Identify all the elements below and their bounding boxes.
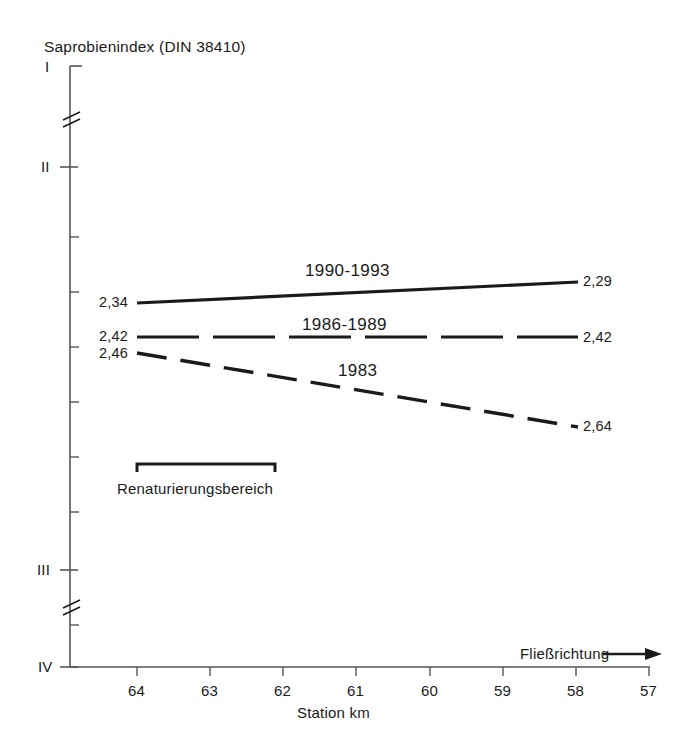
value-label-1986-start: 2,42 — [99, 328, 128, 344]
x-tick-label-63: 63 — [201, 682, 218, 699]
fliessrichtung-label: Fließrichtung — [520, 645, 609, 662]
axis-break-icon — [63, 600, 80, 608]
y-axis-label-iv: IV — [38, 658, 53, 675]
value-label-1986-end: 2,42 — [583, 329, 612, 345]
axis-break-icon — [63, 112, 80, 120]
x-axis-caption: Station km — [297, 704, 370, 721]
series-line-1990-1993 — [137, 282, 578, 303]
x-tick-label-64: 64 — [128, 682, 145, 699]
y-axis-label-ii: II — [41, 158, 50, 175]
x-tick-label-61: 61 — [347, 682, 364, 699]
flow-arrow-head — [645, 648, 662, 660]
series-label-1990-1993: 1990-1993 — [305, 261, 390, 281]
axis-break-icon — [63, 607, 80, 615]
axis-break-icon — [63, 119, 80, 127]
x-tick-label-57: 57 — [640, 682, 657, 699]
renaturierungsbereich-label: Renaturierungsbereich — [117, 480, 273, 497]
x-tick-label-58: 58 — [567, 682, 584, 699]
value-label-1983-end: 2,64 — [583, 418, 612, 434]
series-label-1983: 1983 — [338, 361, 377, 381]
chart-figure: Saprobienindex (DIN 38410) I II III IV 6… — [0, 0, 692, 751]
renaturierungsbereich-bracket — [137, 464, 275, 472]
y-axis-label-i: I — [45, 58, 49, 75]
value-label-1983-start: 2,46 — [99, 345, 128, 361]
x-tick-label-62: 62 — [274, 682, 291, 699]
page-title: Saprobienindex (DIN 38410) — [44, 38, 246, 56]
series-label-1986-1989: 1986-1989 — [302, 315, 387, 335]
value-label-1990-start: 2,34 — [99, 294, 128, 310]
x-tick-label-60: 60 — [421, 682, 438, 699]
value-label-1990-end: 2,29 — [583, 273, 612, 289]
x-tick-label-59: 59 — [494, 682, 511, 699]
y-axis-label-iii: III — [37, 561, 50, 578]
